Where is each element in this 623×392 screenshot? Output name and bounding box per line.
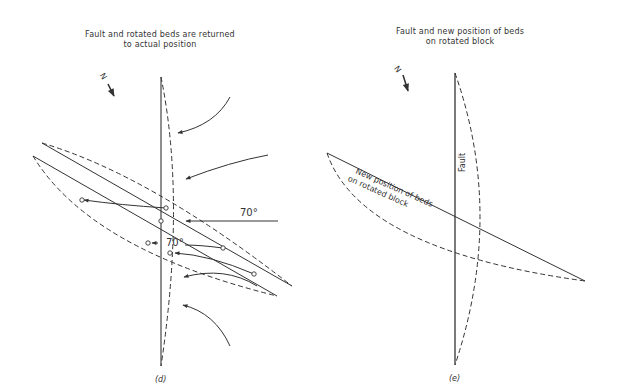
north-arrow-icon: [108, 84, 114, 96]
north-label-d: N: [98, 72, 109, 82]
north-label-e: N: [392, 64, 403, 74]
caption-e: (e): [449, 374, 460, 383]
bed-connector-1: [84, 200, 166, 208]
bed-connector-3: [175, 253, 254, 274]
angle-label-left: 70°: [166, 237, 184, 248]
diagram-canvas: N 70° 70° (d) N Fault New position of be…: [0, 0, 623, 392]
rotation-arc-2: [186, 155, 268, 179]
rotated-fault-dashed: [455, 73, 480, 365]
fault-label: Fault: [458, 153, 467, 172]
panel-e: [327, 73, 585, 365]
rotation-arc-1: [178, 97, 230, 133]
angle-label-right: 70°: [240, 207, 258, 218]
beds-label: New position of beds on rotated block: [346, 165, 434, 218]
north-arrow-icon: [403, 75, 408, 91]
caption-d: (d): [155, 375, 166, 384]
bed-line-2: [33, 156, 277, 296]
panel-d: [33, 77, 292, 366]
rotation-arc-4: [184, 273, 257, 286]
rotation-arc-5: [183, 305, 230, 346]
